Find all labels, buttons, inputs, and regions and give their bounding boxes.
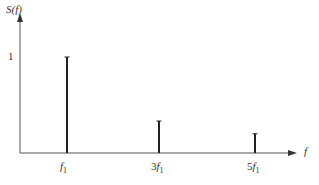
spectrum-plot — [0, 0, 319, 185]
x-tick-5f1: 5f1 — [247, 160, 260, 175]
x-axis-label: f — [304, 145, 307, 157]
x-axis-arrow-icon — [288, 150, 297, 156]
x-tick-3f1: 3f1 — [151, 160, 164, 175]
y-tick-1: 1 — [8, 50, 14, 62]
x-tick-f1: f1 — [60, 160, 67, 175]
y-axis-label: S(f) — [6, 3, 22, 15]
stems-group — [65, 57, 258, 153]
